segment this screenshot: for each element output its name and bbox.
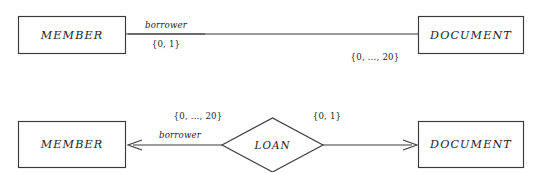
top-role-label: borrower — [145, 20, 188, 30]
bottom-diagram-group: MEMBER DOCUMENT LOAN borrower {0, ..., 2… — [19, 111, 524, 173]
diagram-svg-layer: MEMBER DOCUMENT borrower {0, 1} {0, ...,… — [0, 0, 540, 172]
top-entity-member-label: MEMBER — [40, 29, 104, 42]
bottom-left-cardinality-label: {0, ..., 20} — [174, 111, 223, 121]
top-left-cardinality-label: {0, 1} — [152, 39, 181, 49]
bottom-role-label: borrower — [159, 130, 202, 140]
top-entity-document-label: DOCUMENT — [429, 29, 512, 42]
bottom-entity-member-label: MEMBER — [40, 138, 104, 151]
er-diagram-canvas: MEMBER DOCUMENT borrower {0, 1} {0, ...,… — [0, 0, 540, 172]
top-right-cardinality-label: {0, ..., 20} — [351, 52, 400, 62]
bottom-relationship-loan-label: LOAN — [253, 139, 290, 151]
bottom-entity-document-label: DOCUMENT — [429, 138, 512, 151]
top-diagram-group: MEMBER DOCUMENT borrower {0, 1} {0, ...,… — [19, 17, 524, 62]
bottom-right-cardinality-label: {0, 1} — [313, 111, 342, 121]
